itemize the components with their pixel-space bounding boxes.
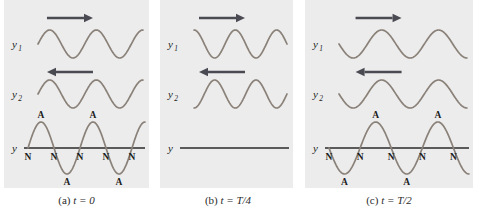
panel-c-wave-y2	[339, 80, 467, 108]
panel-a-label-y2-subscript: 2	[18, 94, 22, 103]
panel-c-label-y2: y	[312, 88, 318, 100]
panel-c-node-label: N	[326, 152, 333, 162]
panel-b: y1y2y	[160, 0, 293, 188]
panel-b-caption: (b) t = T/4	[158, 190, 298, 214]
panel-b-caption-prefix: (b)	[205, 194, 221, 206]
panel-b-label-resultant: y	[167, 142, 173, 154]
panel-a-node-label: N	[25, 152, 32, 162]
panel-c-label-resultant: y	[312, 142, 318, 154]
panel-a-label-y2: y	[11, 88, 17, 100]
panel-c-node-label: N	[388, 152, 395, 162]
panel-c-y2-direction-arrow-left-arrow	[356, 68, 402, 76]
panel-b-wave-y1	[194, 30, 287, 58]
panel-c-node-label: N	[450, 152, 457, 162]
panel-a-label-y1: y	[11, 38, 17, 50]
panel-c-caption-prefix: (c)	[366, 194, 381, 206]
panel-a-antinode-label: A	[38, 110, 45, 120]
panel-c-caption: (c) t = T/2	[303, 190, 475, 214]
panel-a-wave-y2	[38, 80, 143, 108]
panel-a-caption: (a) t = 0	[4, 190, 149, 214]
panel-a-y2-direction-arrow-left-arrow	[47, 68, 93, 76]
panel-c-node-label: N	[357, 152, 364, 162]
panel-b-wave-y2	[194, 80, 287, 108]
panel-c-antinode-label: A	[341, 177, 348, 187]
panel-b-label-y2: y	[167, 88, 173, 100]
panel-c: y1y2yNNNNNAAAA	[305, 0, 473, 188]
panel-a-caption-value: = 0	[79, 194, 95, 206]
panel-b-label-y1-subscript: 1	[174, 44, 178, 53]
panel-a-label-y1-subscript: 1	[18, 44, 22, 53]
panel-c-node-label: N	[419, 152, 426, 162]
panel-a-node-label: N	[51, 152, 58, 162]
panel-a-antinode-label: A	[90, 110, 97, 120]
panel-c-antinode-label: A	[372, 110, 379, 120]
panel-b-y2-direction-arrow-left-arrow	[199, 68, 245, 76]
panel-c-canvas: y1y2yNNNNNAAAA	[305, 0, 473, 188]
panel-b-canvas: y1y2y	[160, 0, 293, 188]
panel-a-canvas: y1y2yNNNNNAAAA	[4, 0, 149, 188]
panel-c-label-y1: y	[312, 38, 318, 50]
panel-c-wave-y1	[339, 30, 467, 58]
standing-wave-figure: y1y2yNNNNNAAAA(a) t = 0y1y2y(b) t = T/4y…	[0, 0, 480, 216]
panel-c-label-y1-subscript: 1	[319, 44, 323, 53]
panel-a-caption-prefix: (a)	[58, 194, 73, 206]
panel-c-caption-value: = T/2	[387, 194, 412, 206]
panel-c-antinode-label: A	[434, 110, 441, 120]
panel-b-y1-direction-arrow-right-arrow	[199, 14, 245, 22]
panel-a-node-label: N	[77, 152, 84, 162]
panel-a: y1y2yNNNNNAAAA	[4, 0, 149, 188]
panel-a-label-resultant: y	[11, 142, 17, 154]
panel-a-wave-y1	[38, 30, 143, 58]
panel-a-antinode-label: A	[64, 177, 71, 187]
panel-b-label-y2-subscript: 2	[174, 94, 178, 103]
panel-a-node-label: N	[129, 152, 136, 162]
panel-c-antinode-label: A	[403, 177, 410, 187]
panel-b-label-y1: y	[167, 38, 173, 50]
panel-a-antinode-label: A	[116, 177, 123, 187]
panel-c-y1-direction-arrow-right-arrow	[356, 14, 402, 22]
panel-c-label-y2-subscript: 2	[319, 94, 323, 103]
panel-a-node-label: N	[103, 152, 110, 162]
panel-a-y1-direction-arrow-right-arrow	[47, 14, 93, 22]
panel-b-caption-value: = T/4	[226, 194, 251, 206]
